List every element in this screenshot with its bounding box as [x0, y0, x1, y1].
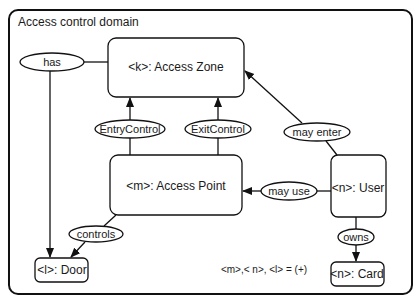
diagram-canvas: [0, 0, 418, 300]
controls-label: controls: [77, 229, 116, 240]
access-point-label: <m>: Access Point: [126, 180, 225, 192]
may-enter-label: may enter: [293, 127, 342, 138]
multiplicity-note: <m>,< n>, <l> = (+): [221, 265, 307, 275]
controls-connector: [104, 215, 116, 226]
may-enter-connector: [326, 141, 337, 155]
controls-arrow: [71, 242, 85, 257]
exit-control-label: ExitControl: [191, 124, 245, 135]
domain-title: Access control domain: [18, 15, 139, 29]
has-label: has: [43, 57, 61, 68]
door-label: <l>: Door: [37, 264, 86, 276]
access-zone-label: <k>: Access Zone: [128, 61, 223, 73]
owns-label: owns: [343, 232, 369, 243]
user-label: <n>: User: [332, 182, 385, 194]
may-use-label: may use: [268, 186, 310, 197]
card-label: <n>: Card: [330, 268, 383, 280]
may-enter-arrow: [245, 71, 302, 123]
entry-control-label: EntryControl: [99, 124, 160, 135]
